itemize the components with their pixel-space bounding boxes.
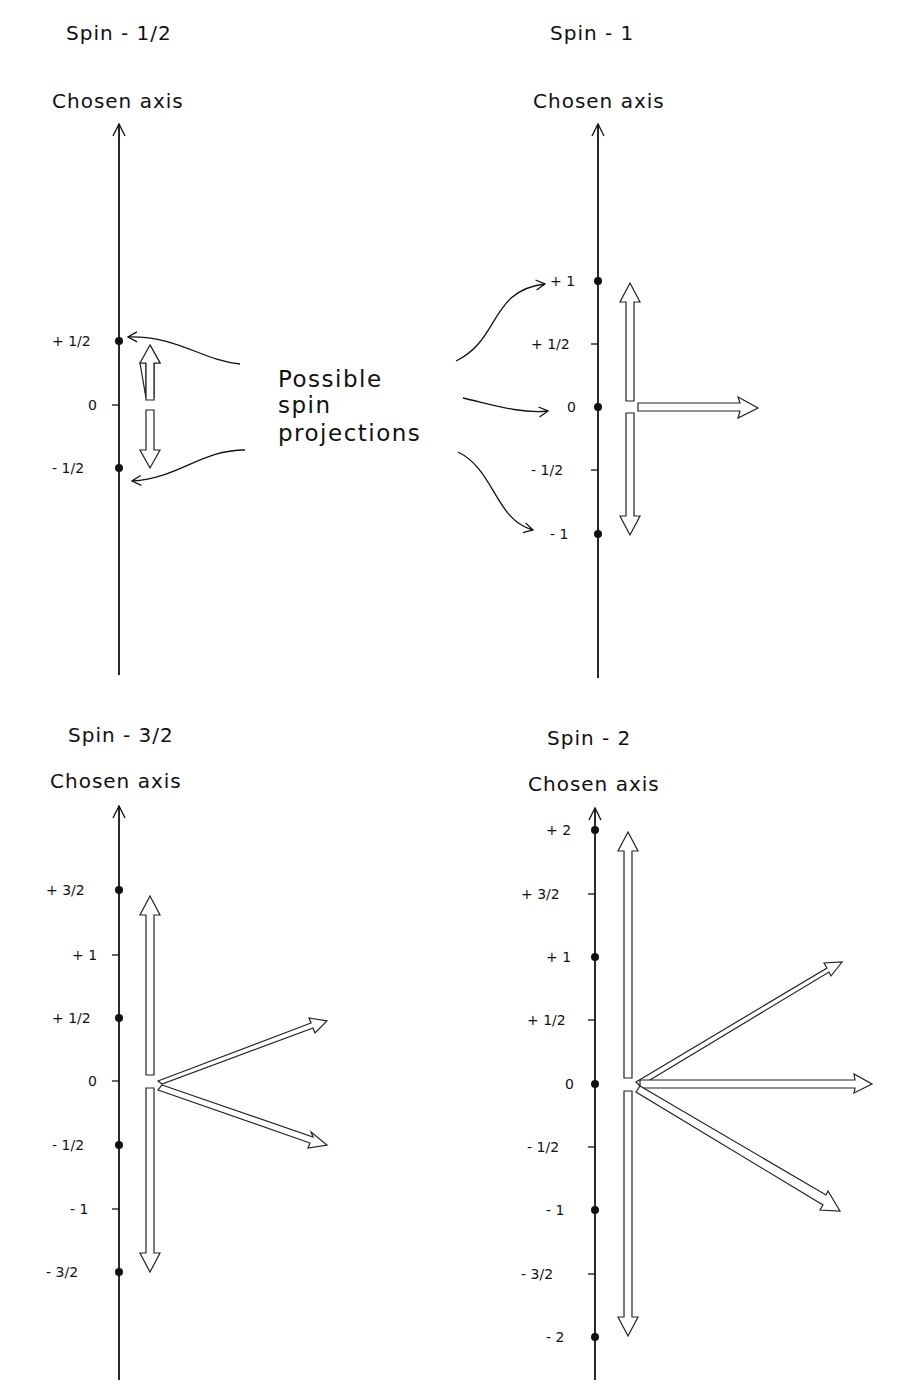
tick-label: - 2 (546, 1329, 564, 1345)
panel-title: Spin - 1 (550, 21, 634, 45)
axis-label: Chosen axis (50, 769, 182, 793)
tick-label: - 1 (550, 526, 568, 542)
double-arrow-down-icon (140, 410, 160, 468)
tilted-arrow-down-icon (636, 1086, 840, 1211)
caption-line: Possible (278, 366, 383, 392)
axis-label: Chosen axis (533, 89, 665, 113)
tilted-arrow-up-icon (636, 962, 842, 1086)
panel-title: Spin - 2 (547, 726, 631, 750)
allowed-dot (115, 886, 123, 894)
double-arrow-down-icon (620, 413, 640, 535)
allowed-dot (115, 1141, 123, 1149)
double-arrow-down-icon (618, 1091, 638, 1336)
pointer-arrow-icon (463, 398, 548, 412)
tick-label: - 1/2 (527, 1139, 559, 1155)
tick-label: 0 (88, 1073, 97, 1089)
tick-label: + 1/2 (527, 1012, 566, 1028)
tick-label: + 1 (546, 949, 571, 965)
axis-label: Chosen axis (52, 89, 184, 113)
tick-label: + 1 (72, 947, 97, 963)
tick-label: 0 (565, 1076, 574, 1092)
allowed-dot (115, 337, 123, 345)
panel-spin-three-halves: Spin - 3/2 Chosen axis + 3/2 + 1 + 1/2 0… (46, 723, 327, 1380)
allowed-dot (591, 953, 599, 961)
double-arrow-up-icon (618, 832, 638, 1078)
allowed-dot (115, 1268, 123, 1276)
caption-possible-spin-projections: Possible spin projections (278, 366, 421, 446)
panel-spin-one: Spin - 1 Chosen axis + 1 + 1/2 0 - 1/2 -… (456, 21, 758, 678)
allowed-dot (591, 1080, 599, 1088)
tick-label: - 1/2 (52, 460, 84, 476)
allowed-dot (115, 1014, 123, 1022)
tick-label: + 2 (546, 822, 571, 838)
double-arrow-up-icon (620, 283, 640, 401)
caption-line: projections (278, 420, 421, 446)
perpendicular-arrow-icon (638, 397, 758, 418)
tilted-arrow-down-icon (158, 1085, 327, 1148)
double-arrow-up-icon (140, 896, 160, 1075)
tick-label: - 1 (546, 1202, 564, 1218)
panel-spin-half: Spin - 1/2 Chosen axis + 1/2 0 - 1/2 (52, 21, 245, 675)
panel-title: Spin - 1/2 (66, 21, 172, 45)
allowed-dot (594, 403, 602, 411)
panel-spin-two: Spin - 2 Chosen axis + 2 + 3/2 + 1 + 1/2… (521, 726, 872, 1380)
tick-label: + 3/2 (521, 886, 560, 902)
allowed-dot (591, 1333, 599, 1341)
tilted-arrow-up-icon (158, 1018, 327, 1084)
tick-label: 0 (88, 397, 97, 413)
tick-label: - 3/2 (46, 1264, 78, 1280)
tick-label: - 1/2 (531, 462, 563, 478)
axis-label: Chosen axis (528, 772, 660, 796)
double-arrow-down-icon (140, 1088, 160, 1272)
tick-label: - 1/2 (52, 1137, 84, 1153)
panel-title: Spin - 3/2 (68, 723, 174, 747)
pointer-arrow-icon (458, 452, 533, 530)
caption-line: spin (278, 392, 332, 418)
allowed-dot (115, 464, 123, 472)
tick-label: - 3/2 (521, 1266, 553, 1282)
allowed-dot (591, 826, 599, 834)
allowed-dot (591, 1206, 599, 1214)
tick-label: + 1/2 (531, 336, 570, 352)
tick-label: + 1/2 (52, 1010, 91, 1026)
spin-projection-diagram: Spin - 1/2 Chosen axis + 1/2 0 - 1/2 Pos… (0, 0, 917, 1384)
tick-label: 0 (567, 399, 576, 415)
allowed-dot (594, 277, 602, 285)
tick-label: + 3/2 (46, 882, 85, 898)
horizontal-arrow-icon (640, 1074, 872, 1093)
tick-label: - 1 (70, 1201, 88, 1217)
allowed-dot (594, 530, 602, 538)
tick-label: + 1/2 (52, 333, 91, 349)
tick-label: + 1 (550, 273, 575, 289)
